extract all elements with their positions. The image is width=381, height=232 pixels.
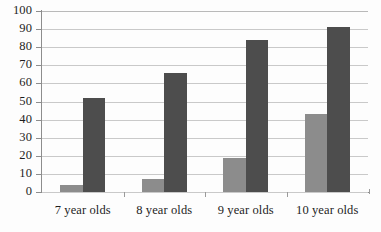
y-axis-label-40: 40 <box>0 113 32 126</box>
y-axis-label-100: 100 <box>0 4 32 17</box>
x-axis-label-1: 8 year olds <box>124 203 206 217</box>
bar-series-1-1 <box>142 179 165 192</box>
bar-series-1-0 <box>60 185 83 192</box>
plot-area <box>42 11 368 192</box>
gridline-90 <box>42 29 368 30</box>
bar-chart: 0102030405060708090100 7 year olds8 year… <box>0 0 381 232</box>
x-axis-tick-0 <box>124 192 125 197</box>
bar-series-2-3 <box>327 27 350 192</box>
bar-series-2-2 <box>246 40 269 192</box>
x-axis-label-3: 10 year olds <box>287 203 369 217</box>
y-axis-label-0: 0 <box>0 185 32 198</box>
bar-series-1-3 <box>305 114 328 192</box>
gridline-60 <box>42 83 368 84</box>
y-axis-label-30: 30 <box>0 131 32 144</box>
x-axis-tick-1 <box>205 192 206 197</box>
x-axis-label-0: 7 year olds <box>42 203 124 217</box>
gridline-80 <box>42 47 368 48</box>
bar-series-1-2 <box>223 158 246 192</box>
y-axis-label-20: 20 <box>0 149 32 162</box>
gridline-100 <box>42 11 368 12</box>
x-axis-tick-2 <box>287 192 288 197</box>
y-axis-label-90: 90 <box>0 22 32 35</box>
y-axis-label-80: 80 <box>0 40 32 53</box>
y-axis-label-10: 10 <box>0 167 32 180</box>
bar-series-2-0 <box>83 98 106 192</box>
gridline-70 <box>42 65 368 66</box>
x-axis-end-tick <box>369 189 370 194</box>
bar-series-2-1 <box>164 73 187 192</box>
y-axis-label-70: 70 <box>0 58 32 71</box>
y-axis-label-60: 60 <box>0 76 32 89</box>
y-axis-label-50: 50 <box>0 95 32 108</box>
x-axis-label-2: 9 year olds <box>205 203 287 217</box>
